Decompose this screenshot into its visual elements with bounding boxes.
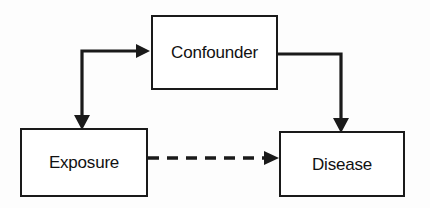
edge-confounder-to-exposure-line xyxy=(82,51,143,124)
edge-exposure-to-disease xyxy=(148,151,279,165)
node-confounder-label: Confounder xyxy=(171,44,258,61)
node-exposure-label: Exposure xyxy=(49,154,119,171)
node-exposure[interactable]: Exposure xyxy=(20,128,148,197)
arrow-head-into-disease-left xyxy=(264,151,279,165)
node-disease[interactable]: Disease xyxy=(279,131,405,197)
edge-confounder-to-disease-line xyxy=(278,54,341,127)
node-disease-label: Disease xyxy=(312,156,372,173)
edge-confounder-to-exposure xyxy=(74,44,150,130)
node-confounder[interactable]: Confounder xyxy=(151,15,278,90)
edge-confounder-to-disease xyxy=(278,54,349,133)
arrow-head-into-confounder xyxy=(136,44,150,58)
diagram-canvas: Confounder Exposure Disease xyxy=(0,0,430,208)
